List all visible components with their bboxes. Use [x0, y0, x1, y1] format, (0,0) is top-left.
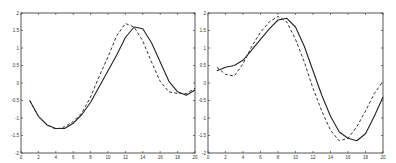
y-tick-label: 0: [16, 81, 19, 86]
dashed-series-line: [217, 17, 383, 141]
y-tick-label: -1.5: [198, 133, 206, 138]
x-tick-label: 12: [123, 155, 129, 160]
y-tick-label: 2: [203, 11, 206, 16]
x-tick-label: 18: [363, 155, 369, 160]
x-tick-label: 8: [277, 155, 280, 160]
right-line-plot: 02468101214161820-2-1.5-1-0.500.511.52: [198, 11, 386, 161]
y-tick-label: -0.5: [11, 98, 19, 103]
x-tick-label: 0: [207, 155, 210, 160]
x-tick-label: 16: [345, 155, 351, 160]
x-tick-label: 20: [192, 155, 198, 160]
x-tick-label: 2: [224, 155, 227, 160]
y-tick-label: 0: [203, 81, 206, 86]
x-tick-label: 4: [55, 155, 58, 160]
x-tick-label: 12: [310, 155, 316, 160]
x-tick-label: 4: [242, 155, 245, 160]
x-tick-label: 10: [293, 155, 299, 160]
x-tick-label: 16: [158, 155, 164, 160]
y-tick-label: -0.5: [198, 98, 206, 103]
left-line-plot: 02468101214161820-2-1.5-1-0.500.511.52: [11, 11, 198, 161]
x-tick-label: 18: [175, 155, 181, 160]
y-tick-label: 1: [203, 46, 206, 51]
solid-series-line: [217, 18, 383, 141]
y-tick-label: -2: [202, 151, 206, 156]
solid-series-line: [30, 27, 195, 129]
x-tick-label: 10: [105, 155, 111, 160]
x-tick-label: 6: [259, 155, 262, 160]
dashed-series-line: [30, 24, 195, 130]
axes-frame: [208, 13, 383, 153]
y-tick-label: 1: [16, 46, 19, 51]
x-tick-label: 14: [140, 155, 146, 160]
x-tick-label: 8: [89, 155, 92, 160]
y-tick-label: -2: [15, 151, 19, 156]
y-tick-label: -1.5: [11, 133, 19, 138]
axes-frame: [21, 13, 195, 153]
y-tick-label: 0.5: [200, 63, 207, 68]
x-tick-label: 2: [37, 155, 40, 160]
y-tick-label: -1: [15, 116, 19, 121]
x-tick-label: 14: [328, 155, 334, 160]
x-tick-label: 0: [20, 155, 23, 160]
y-tick-label: 2: [16, 11, 19, 16]
chart-canvas: 02468101214161820-2-1.5-1-0.500.511.52 0…: [0, 0, 396, 163]
y-tick-label: 1.5: [200, 28, 207, 33]
y-tick-label: 1.5: [13, 28, 20, 33]
y-tick-label: 0.5: [13, 63, 20, 68]
y-tick-label: -1: [202, 116, 206, 121]
x-tick-label: 20: [380, 155, 386, 160]
x-tick-label: 6: [72, 155, 75, 160]
